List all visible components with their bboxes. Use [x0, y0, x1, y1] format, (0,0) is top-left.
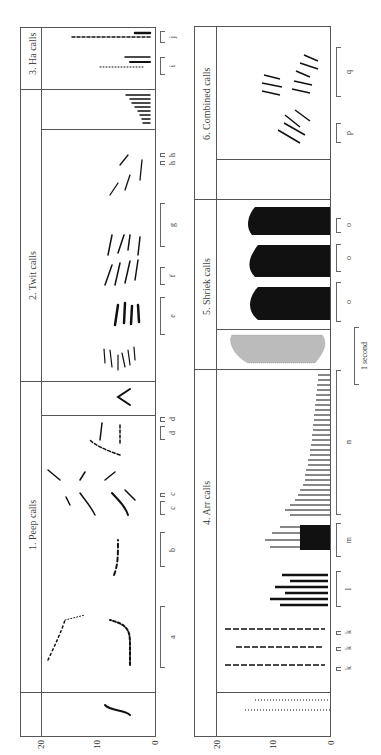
sonogram-row2	[0, 0, 381, 755]
bracket-label: l	[344, 584, 353, 594]
y-tick-0: 0	[326, 741, 336, 746]
bracket-label: m	[344, 535, 353, 545]
bracket	[336, 370, 341, 515]
bracket	[336, 47, 341, 97]
bracket-label: o	[344, 220, 353, 230]
bracket-label: k	[344, 627, 353, 637]
bracket	[336, 523, 341, 557]
bracket-label: k	[344, 643, 353, 653]
figure: 1. Peep calls 2. Twit calls 3. Ha calls	[0, 0, 381, 755]
bracket	[336, 218, 341, 233]
scale-bar	[354, 327, 359, 385]
bracket-label: n	[344, 437, 353, 447]
y-tick-20: 20	[212, 740, 222, 749]
bracket	[336, 571, 341, 607]
bracket	[336, 123, 341, 143]
bracket-label: q	[344, 67, 353, 77]
scale-bar-label: 1 second	[360, 327, 369, 385]
bracket	[336, 282, 341, 322]
bracket-label: p	[344, 128, 353, 138]
y-tick-10: 10	[268, 740, 278, 749]
bracket	[336, 647, 341, 651]
bracket-label: o	[344, 253, 353, 263]
bracket	[336, 631, 341, 635]
bracket	[336, 244, 341, 272]
bracket-label: o	[344, 297, 353, 307]
bracket	[336, 667, 341, 671]
bracket-label: k	[344, 663, 353, 673]
